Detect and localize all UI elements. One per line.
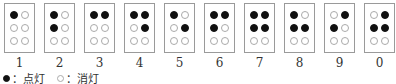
filled-dot-icon	[210, 24, 218, 32]
digit-label: 7	[256, 57, 264, 70]
filled-dot-icon	[221, 11, 229, 19]
filled-dot-icon	[261, 11, 269, 19]
filled-dot-icon	[90, 11, 98, 19]
legend-off: ：消灯	[57, 70, 99, 84]
empty-dot-icon	[210, 37, 218, 45]
empty-dot-icon	[330, 11, 338, 19]
empty-dot-icon	[381, 37, 389, 45]
dot-box	[164, 3, 195, 53]
digit-cell: 9	[323, 3, 356, 70]
filled-dot-icon	[141, 24, 149, 32]
dot-box	[204, 3, 235, 53]
empty-dot-icon	[57, 75, 64, 82]
digit-label: 0	[376, 57, 384, 70]
filled-dot-icon	[301, 24, 309, 32]
filled-dot-icon	[3, 75, 10, 82]
dot-box	[364, 3, 395, 53]
empty-dot-icon	[261, 37, 269, 45]
digit-label: 8	[296, 57, 304, 70]
digit-label: 2	[56, 57, 64, 70]
digit-cell: 0	[363, 3, 396, 70]
empty-dot-icon	[221, 37, 229, 45]
empty-dot-icon	[130, 24, 138, 32]
filled-dot-icon	[250, 24, 258, 32]
dot-box	[284, 3, 315, 53]
filled-dot-icon	[341, 11, 349, 19]
empty-dot-icon	[370, 11, 378, 19]
filled-dot-icon	[290, 11, 298, 19]
dot-box	[244, 3, 275, 53]
empty-dot-icon	[170, 37, 178, 45]
empty-dot-icon	[90, 24, 98, 32]
empty-dot-icon	[101, 24, 109, 32]
filled-dot-icon	[50, 24, 58, 32]
empty-dot-icon	[101, 37, 109, 45]
empty-dot-icon	[21, 11, 29, 19]
braille-digit-grid: 1234567890	[3, 3, 396, 70]
empty-dot-icon	[341, 24, 349, 32]
digit-label: 5	[176, 57, 184, 70]
empty-dot-icon	[170, 24, 178, 32]
filled-dot-icon	[101, 11, 109, 19]
dot-box	[44, 3, 75, 53]
filled-dot-icon	[50, 11, 58, 19]
digit-label: 1	[16, 57, 24, 70]
digit-cell: 4	[123, 3, 156, 70]
filled-dot-icon	[330, 24, 338, 32]
filled-dot-icon	[370, 24, 378, 32]
filled-dot-icon	[181, 24, 189, 32]
empty-dot-icon	[290, 37, 298, 45]
dot-box	[84, 3, 115, 53]
filled-dot-icon	[261, 24, 269, 32]
empty-dot-icon	[61, 11, 69, 19]
filled-dot-icon	[381, 24, 389, 32]
digit-cell: 2	[43, 3, 76, 70]
empty-dot-icon	[21, 24, 29, 32]
filled-dot-icon	[10, 11, 18, 19]
filled-dot-icon	[130, 11, 138, 19]
digit-cell: 3	[83, 3, 116, 70]
empty-dot-icon	[61, 37, 69, 45]
filled-dot-icon	[381, 11, 389, 19]
dot-box	[4, 3, 35, 53]
empty-dot-icon	[301, 11, 309, 19]
empty-dot-icon	[21, 37, 29, 45]
empty-dot-icon	[50, 37, 58, 45]
digit-cell: 6	[203, 3, 236, 70]
digit-cell: 1	[3, 3, 36, 70]
filled-dot-icon	[210, 11, 218, 19]
filled-dot-icon	[250, 11, 258, 19]
dot-box	[124, 3, 155, 53]
digit-cell: 5	[163, 3, 196, 70]
empty-dot-icon	[10, 37, 18, 45]
empty-dot-icon	[330, 37, 338, 45]
empty-dot-icon	[61, 24, 69, 32]
empty-dot-icon	[130, 37, 138, 45]
empty-dot-icon	[301, 37, 309, 45]
filled-dot-icon	[141, 11, 149, 19]
filled-dot-icon	[170, 11, 178, 19]
empty-dot-icon	[181, 11, 189, 19]
empty-dot-icon	[181, 37, 189, 45]
legend-off-label: ：消灯	[66, 70, 99, 84]
legend-on-label: ：点灯	[12, 70, 45, 84]
empty-dot-icon	[90, 37, 98, 45]
digit-label: 6	[216, 57, 224, 70]
empty-dot-icon	[341, 37, 349, 45]
digit-label: 4	[136, 57, 144, 70]
dot-box	[324, 3, 355, 53]
digit-cell: 8	[283, 3, 316, 70]
empty-dot-icon	[10, 24, 18, 32]
empty-dot-icon	[370, 37, 378, 45]
digit-cell: 7	[243, 3, 276, 70]
digit-label: 9	[336, 57, 344, 70]
digit-label: 3	[96, 57, 104, 70]
legend: ：点灯 ：消灯	[3, 70, 99, 84]
empty-dot-icon	[141, 37, 149, 45]
empty-dot-icon	[221, 24, 229, 32]
legend-on: ：点灯	[3, 70, 45, 84]
filled-dot-icon	[290, 24, 298, 32]
empty-dot-icon	[250, 37, 258, 45]
